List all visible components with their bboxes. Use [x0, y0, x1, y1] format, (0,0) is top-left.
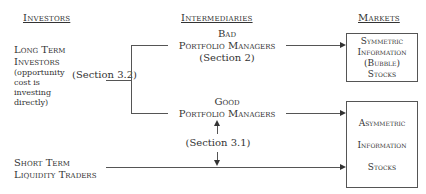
- short-term-traders: Short Term Liquidity Traders: [14, 157, 96, 181]
- line-bad-to-symmetric: [286, 45, 340, 46]
- long-term-line2: Investors: [14, 56, 66, 68]
- bad-portfolio-managers: Bad Portfolio Managers (Section 2): [162, 28, 292, 64]
- symmetric-line3: (Bubble): [364, 58, 400, 69]
- good-line1: Good: [162, 96, 292, 108]
- symmetric-information-box: Symmetric Information (Bubble) Stocks: [346, 33, 418, 82]
- bad-line1: Bad: [162, 28, 292, 40]
- short-term-line1: Short Term: [14, 157, 96, 169]
- arrow-down-icon: [214, 160, 220, 166]
- line-investor-stub: [106, 80, 132, 81]
- bad-line2: Portfolio Managers: [162, 40, 292, 52]
- header-intermediaries: Intermediaries: [181, 12, 253, 23]
- short-term-line2: Liquidity Traders: [14, 169, 96, 181]
- asymmetric-information-box: Asymmetric Information Stocks: [346, 101, 418, 188]
- line-vertical-split: [131, 45, 132, 114]
- good-portfolio-managers: Good Portfolio Managers: [162, 96, 292, 120]
- long-term-investors: Long Term Investors (opportunity cost is…: [14, 44, 66, 108]
- asymmetric-line1: Asymmetric: [359, 112, 406, 134]
- section-3-1-label: (Section 3.1): [177, 137, 259, 149]
- asymmetric-line3: Stocks: [368, 156, 396, 178]
- long-term-note-3: investing: [14, 88, 66, 98]
- header-investors: Investors: [23, 12, 70, 23]
- long-term-line1: Long Term: [14, 44, 66, 56]
- symmetric-line4: Stocks: [368, 69, 396, 80]
- bad-section: (Section 2): [162, 52, 292, 64]
- header-markets: Markets: [358, 12, 400, 23]
- line-good-to-asymmetric: [286, 113, 340, 114]
- symmetric-line2: Information: [357, 47, 406, 58]
- line-short-term: [106, 167, 340, 168]
- asymmetric-line2: Information: [357, 134, 406, 156]
- symmetric-line1: Symmetric: [361, 36, 403, 47]
- good-line2: Portfolio Managers: [162, 108, 292, 120]
- long-term-note-2: cost is: [14, 78, 66, 88]
- arrow-up-icon: [214, 120, 220, 126]
- long-term-note-1: (opportunity: [14, 68, 66, 78]
- long-term-note-4: directly): [14, 98, 66, 108]
